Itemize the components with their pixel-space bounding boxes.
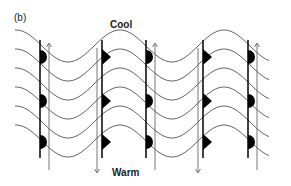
- cool-label: Cool: [110, 19, 132, 30]
- warm-front-semicircle-icon: [248, 50, 255, 64]
- warm-front-semicircle-icon: [40, 50, 47, 64]
- warm-front-semicircle-icon: [40, 94, 47, 108]
- cold-front-triangle-icon: [203, 134, 212, 150]
- warm-front-semicircle-icon: [40, 135, 47, 149]
- isotherm-line: [15, 30, 269, 62]
- warm-front-semicircle-icon: [248, 135, 255, 149]
- isotherm-line: [15, 125, 269, 157]
- isotherm-line: [15, 68, 269, 100]
- warm-front-semicircle-icon: [248, 94, 255, 108]
- cold-front-triangle-icon: [203, 93, 212, 109]
- isotherm-waves: [15, 30, 269, 157]
- warm-front-semicircle-icon: [146, 94, 153, 108]
- isotherm-line: [15, 49, 269, 81]
- cold-front-triangle-icon: [102, 134, 111, 150]
- warm-label: Warm: [112, 167, 139, 178]
- frontal-wave-diagram: [0, 0, 291, 186]
- isotherm-line: [15, 106, 269, 138]
- cold-front-triangle-icon: [102, 93, 111, 109]
- cold-front-triangle-icon: [102, 49, 111, 65]
- panel-label: (b): [14, 12, 26, 23]
- isotherm-line: [15, 87, 269, 119]
- cold-front-triangle-icon: [203, 49, 212, 65]
